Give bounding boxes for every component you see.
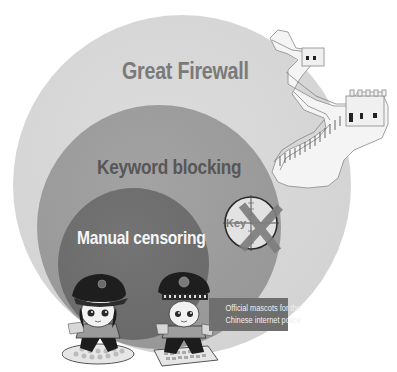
police-mascot-female	[62, 268, 142, 368]
crosshair-reticle-icon: Key	[222, 193, 286, 257]
great-firewall-label: Great Firewall	[122, 57, 249, 85]
reticle-key-text: Key	[226, 217, 247, 229]
great-wall-illustration	[258, 10, 397, 195]
caption-line-1: Official mascots for the	[226, 302, 285, 314]
mascot-caption: Official mascots for the Chinese interne…	[209, 298, 288, 331]
manual-censoring-label: Manual censoring	[77, 227, 206, 249]
keyword-blocking-label: Keyword blocking	[97, 155, 241, 179]
caption-line-2: Chinese internet police	[226, 314, 285, 326]
